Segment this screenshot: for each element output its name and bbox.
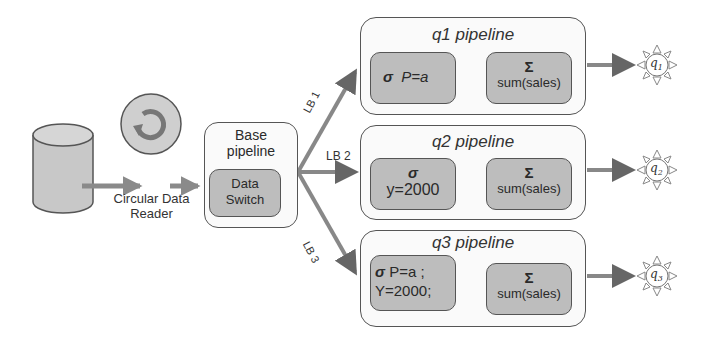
data-switch-box: Data Switch	[209, 169, 281, 217]
circular-reader-icon	[121, 94, 181, 154]
connectors-layer	[0, 0, 709, 343]
q1-aggregate-box: Σ sum(sales)	[486, 52, 572, 104]
q2-filter-box: σ y=2000	[370, 158, 456, 210]
database-icon	[33, 124, 93, 213]
q2-aggregate-box: Σ sum(sales)	[486, 158, 572, 210]
q3-pipeline: q3 pipeline σ P=a ; Y=2000; Σ sum(sales)	[360, 230, 586, 327]
q1-filter-box: σ P=a	[370, 52, 456, 104]
output-q3-label: q3	[650, 267, 663, 283]
base-pipeline: Base pipeline Data Switch	[204, 122, 298, 228]
q3-filter-box: σ P=a ; Y=2000;	[370, 255, 456, 311]
output-q2-label: q2	[650, 161, 663, 177]
reader-label: Circular Data Reader	[104, 191, 199, 221]
q1-pipeline: q1 pipeline σ P=a Σ sum(sales)	[360, 17, 586, 115]
output-q1-label: q1	[650, 56, 663, 72]
q2-pipeline: q2 pipeline σ y=2000 Σ sum(sales)	[360, 125, 586, 220]
q3-aggregate-box: Σ sum(sales)	[486, 263, 572, 315]
lb2-label: LB 2	[326, 149, 351, 163]
